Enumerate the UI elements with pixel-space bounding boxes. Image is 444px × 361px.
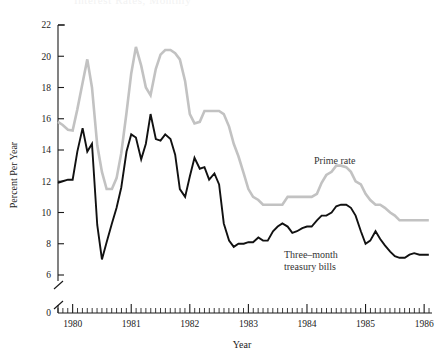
x-tick-label: 1981 xyxy=(122,319,141,329)
x-axis-title: Year xyxy=(233,339,252,350)
x-axis-ticks: 1980198119821983198419851986 xyxy=(58,304,434,329)
interest-rates-figure: Interest Rates, Monthly 0681012141618202… xyxy=(0,0,444,361)
y-tick-label: 16 xyxy=(42,114,52,124)
y-tick-label: 14 xyxy=(42,145,52,155)
x-tick-label: 1982 xyxy=(180,319,199,329)
prime-rate-line xyxy=(58,47,429,220)
y-tick-label: 8 xyxy=(46,239,51,249)
y-tick-label: 12 xyxy=(42,177,52,187)
prime-rate-annotation: Prime rate xyxy=(314,155,356,166)
series-lines xyxy=(58,47,429,260)
tbill-annotation-line1: Three–month xyxy=(284,249,338,260)
y-tick-label: 22 xyxy=(42,20,52,30)
x-tick-label: 1984 xyxy=(297,319,316,329)
y-tick-label: 0 xyxy=(46,308,51,318)
y-tick-label: 10 xyxy=(42,208,52,218)
x-tick-label: 1986 xyxy=(415,319,434,329)
tbill-annotation-line2: treasury bills xyxy=(284,261,336,272)
x-tick-label: 1983 xyxy=(239,319,258,329)
x-tick-label: 1980 xyxy=(63,319,82,329)
y-tick-label: 6 xyxy=(46,270,51,280)
chart-canvas: 06810121416182022 1980198119821983198419… xyxy=(0,0,444,361)
x-tick-label: 1985 xyxy=(356,319,375,329)
y-tick-label: 18 xyxy=(42,83,52,93)
y-tick-label: 20 xyxy=(42,52,52,62)
y-axis-title: Percent Per Year xyxy=(8,141,19,208)
y-axis-ticks: 06810121416182022 xyxy=(42,20,65,318)
